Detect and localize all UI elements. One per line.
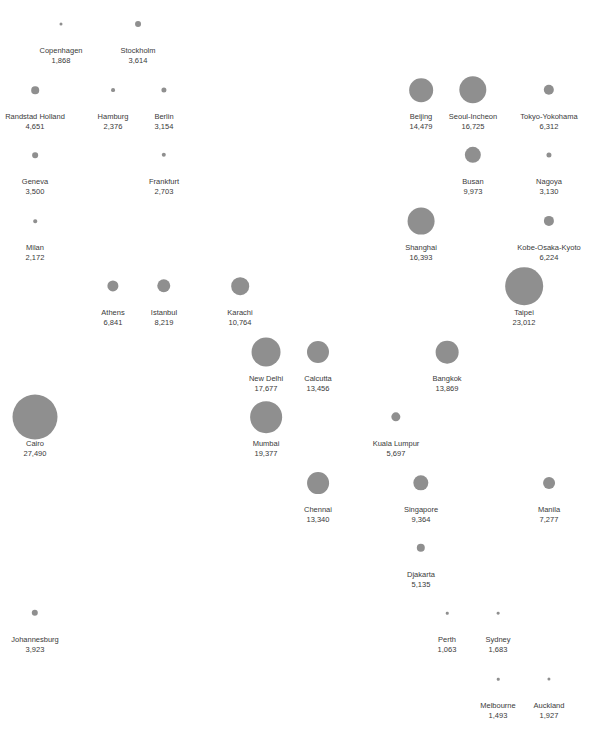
bubble-circle [408,208,435,235]
city-value: 16,393 [405,253,437,263]
city-value: 5,697 [373,449,420,459]
bubble-circle [135,21,141,27]
city-label: Auckland1,927 [534,701,565,721]
city-name: Nagoya [536,177,562,187]
city-value: 27,490 [24,449,47,459]
city-label: Taipei23,012 [513,308,536,328]
city-name: Sydney [485,635,510,645]
city-name: Calcutta [304,374,332,384]
city-name: Kobe-Osaka-Kyoto [517,243,580,253]
city-value: 3,154 [154,122,173,132]
bubble-circle [307,472,329,494]
bubble-circle [13,395,58,440]
bubble-circle [436,341,459,364]
bubble-circle [32,152,38,158]
bubble-chart: Copenhagen1,868Stockholm3,614Randstad Ho… [0,0,592,731]
city-name: Auckland [534,701,565,711]
city-label: Seoul-Incheon16,725 [449,112,497,132]
city-label: Athens6,841 [101,308,124,328]
bubble-circle [465,147,481,163]
city-value: 3,614 [120,56,155,66]
bubble-circle [391,412,400,421]
city-name: Cairo [24,439,47,449]
city-name: Melbourne [480,701,515,711]
city-name: Singapore [404,505,438,515]
bubble-circle [417,544,425,552]
city-name: New Delhi [249,374,283,384]
bubble-circle [459,76,486,103]
city-name: Chennai [304,505,332,515]
bubble-circle [544,216,554,226]
city-label: Djakarta5,135 [407,570,435,590]
bubble-circle [32,610,38,616]
city-value: 5,135 [407,580,435,590]
bubble-circle [413,475,428,490]
city-name: Tokyo-Yokohama [520,112,577,122]
bubble-circle [250,401,282,433]
city-name: Hamburg [98,112,129,122]
city-label: Calcutta13,456 [304,374,332,394]
bubble-circle [497,612,500,615]
city-value: 23,012 [513,318,536,328]
city-name: Taipei [513,308,536,318]
city-value: 1,868 [40,56,83,66]
bubble-circle [544,85,554,95]
city-label: Kobe-Osaka-Kyoto6,224 [517,243,580,263]
city-name: Kuala Lumpur [373,439,420,449]
bubble-circle [505,267,543,305]
city-name: Athens [101,308,124,318]
city-value: 8,219 [151,318,177,328]
city-label: Cairo27,490 [24,439,47,459]
bubble-circle [31,86,39,94]
city-label: Milan2,172 [26,243,45,263]
city-value: 6,312 [520,122,577,132]
city-name: Geneva [22,177,48,187]
city-value: 9,364 [404,515,438,525]
bubble-circle [543,477,555,489]
city-value: 9,973 [462,187,483,197]
city-value: 6,224 [517,253,580,263]
bubble-circle [33,219,37,223]
bubble-circle [446,612,449,615]
city-value: 7,277 [538,515,560,525]
city-label: Copenhagen1,868 [40,46,83,66]
city-value: 3,130 [536,187,562,197]
city-label: Geneva3,500 [22,177,48,197]
bubble-circle [161,87,166,92]
bubble-circle [111,88,115,92]
city-value: 3,500 [22,187,48,197]
city-name: Seoul-Incheon [449,112,497,122]
city-label: Istanbul8,219 [151,308,177,328]
city-name: Busan [462,177,483,187]
city-value: 10,764 [227,318,252,328]
city-name: Copenhagen [40,46,83,56]
city-name: Istanbul [151,308,177,318]
city-name: Milan [26,243,45,253]
city-label: Bangkok13,869 [432,374,461,394]
bubble-circle [157,279,170,292]
city-label: Berlin3,154 [154,112,173,132]
city-label: Kuala Lumpur5,697 [373,439,420,459]
city-value: 13,456 [304,384,332,394]
city-label: Perth1,063 [438,635,457,655]
city-label: Nagoya3,130 [536,177,562,197]
city-label: New Delhi17,677 [249,374,283,394]
city-label: Chennai13,340 [304,505,332,525]
city-label: Tokyo-Yokohama6,312 [520,112,577,132]
city-label: Singapore9,364 [404,505,438,525]
city-value: 17,677 [249,384,283,394]
city-name: Shanghai [405,243,437,253]
city-value: 14,479 [410,122,433,132]
city-label: Manila7,277 [538,505,560,525]
city-value: 1,493 [480,711,515,721]
city-value: 1,927 [534,711,565,721]
city-value: 2,172 [26,253,45,263]
city-value: 4,651 [5,122,65,132]
bubble-circle [59,22,62,25]
city-value: 13,340 [304,515,332,525]
city-label: Johannesburg3,923 [11,635,59,655]
city-label: Sydney1,683 [485,635,510,655]
city-name: Djakarta [407,570,435,580]
city-name: Perth [438,635,457,645]
city-value: 13,869 [432,384,461,394]
